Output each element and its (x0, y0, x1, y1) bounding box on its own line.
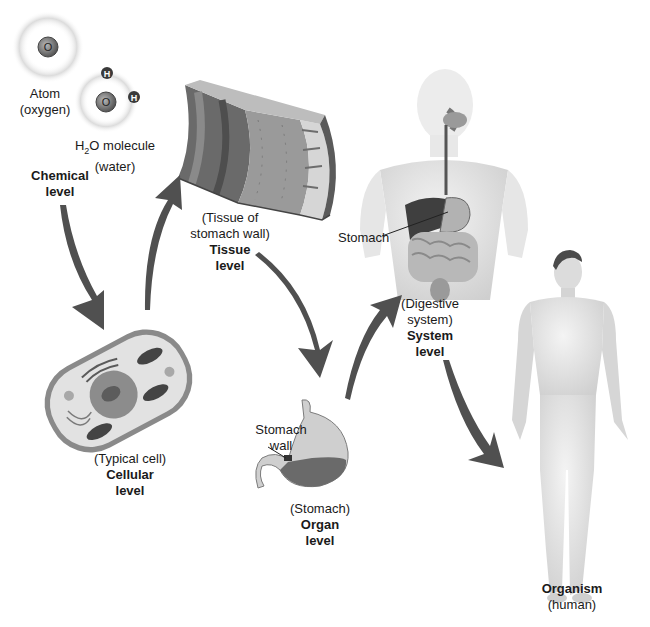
system-level-name: System (390, 328, 470, 344)
stomach-callout-text: Stomach (338, 230, 389, 245)
water-molecule-icon: O H H (74, 67, 140, 133)
tissue-level-word: level (180, 258, 280, 274)
tissue-descriptor-line2: stomach wall) (180, 226, 280, 242)
stomach-wall-callout-line1: Stomach (253, 422, 309, 438)
chemical-level-name: Chemical (20, 168, 100, 184)
system-descriptor-line1: (Digestive (390, 296, 470, 312)
organ-level-label: (Stomach) Organ level (280, 501, 360, 549)
cellular-level-label: (Typical cell) Cellular level (80, 451, 180, 499)
chemical-level-word: level (20, 184, 100, 200)
tissue-level-label: (Tissue of stomach wall) Tissue level (180, 210, 280, 274)
formula-suffix: O molecule (89, 138, 155, 153)
levels-of-organization-diagram: O O H H (0, 0, 650, 627)
organism-level-name: Organism (527, 581, 617, 597)
stomach-callout: Stomach (338, 230, 389, 246)
stomach-wall-callout-line2: wall (253, 438, 309, 454)
cellular-level-word: level (80, 483, 180, 499)
stomach-wall-tissue-image (178, 80, 336, 220)
human-organism-image (512, 250, 628, 603)
arrow-system-to-organism (443, 360, 504, 468)
organ-level-word: level (280, 533, 360, 549)
svg-text:H: H (131, 93, 138, 103)
cellular-descriptor: (Typical cell) (80, 451, 180, 467)
system-descriptor-line2: system) (390, 312, 470, 328)
atom-label: Atom (oxygen) (10, 86, 80, 118)
typical-cell-image (30, 315, 207, 468)
tissue-level-name: Tissue (180, 242, 280, 258)
arrow-chemical-to-cellular (60, 205, 104, 330)
oxygen-atom-icon: O (12, 11, 84, 83)
svg-text:O: O (102, 96, 111, 108)
cellular-level-name: Cellular (80, 467, 180, 483)
svg-text:H: H (104, 69, 111, 79)
stomach-wall-callout: Stomach wall (253, 422, 309, 454)
arrow-cellular-to-tissue (145, 175, 182, 310)
water-molecule-label-line1: H2O molecule (60, 138, 170, 159)
organ-level-name: Organ (280, 517, 360, 533)
system-level-word: level (390, 344, 470, 360)
chemical-level-label: Chemical level (20, 168, 100, 200)
svg-text:O: O (44, 41, 53, 53)
atom-label-line2: (oxygen) (10, 102, 80, 118)
digestive-system-image (360, 69, 528, 302)
organism-level-label: Organism (human) (527, 581, 617, 613)
formula-prefix: H (75, 138, 84, 153)
atom-label-line1: Atom (10, 86, 80, 102)
system-level-label: (Digestive system) System level (390, 296, 470, 360)
tissue-descriptor-line1: (Tissue of (180, 210, 280, 226)
organ-descriptor: (Stomach) (280, 501, 360, 517)
organism-descriptor: (human) (527, 597, 617, 613)
